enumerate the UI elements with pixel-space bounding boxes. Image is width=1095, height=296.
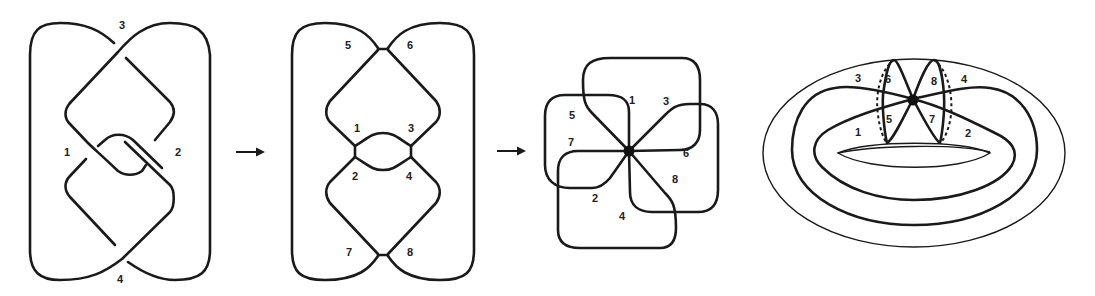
region-label-4: 4 — [406, 170, 413, 182]
torus-label-6: 6 — [885, 73, 891, 85]
petal-bottom — [558, 151, 676, 248]
torus-label-3: 3 — [855, 72, 861, 84]
petal-right — [629, 104, 718, 212]
right-arrow-icon — [497, 147, 526, 156]
petal-label-6: 6 — [683, 147, 689, 159]
torus-loop-outer — [792, 87, 1037, 225]
bouquet-panel: 1 3 5 7 6 8 2 4 — [545, 58, 718, 248]
torus-label-7: 7 — [929, 113, 935, 125]
petal-label-1: 1 — [629, 94, 635, 106]
torus-outer-boundary — [763, 59, 1065, 247]
knot-strand-inner-top — [98, 135, 162, 168]
torus-label-2: 2 — [965, 127, 971, 139]
crossing-label-1: 1 — [64, 146, 70, 158]
petal-label-5: 5 — [569, 109, 575, 121]
region-label-5: 5 — [345, 39, 351, 51]
torus-panel: 3 6 8 4 1 5 7 2 — [763, 59, 1065, 247]
crossing-label-3: 3 — [119, 19, 125, 31]
region-label-1: 1 — [354, 122, 360, 134]
petal-label-4: 4 — [619, 210, 626, 222]
region-label-3: 3 — [408, 122, 414, 134]
torus-label-1: 1 — [855, 126, 861, 138]
ribbon-upper-diamond — [326, 50, 440, 146]
torus-label-4: 4 — [961, 73, 968, 85]
petal-label-8: 8 — [672, 173, 678, 185]
torus-label-8: 8 — [931, 75, 937, 87]
region-label-2: 2 — [352, 170, 358, 182]
ribbon-middle-lens — [355, 133, 411, 170]
ribbon-lower-diamond — [326, 157, 440, 254]
knot-strand-lower-left — [66, 159, 116, 245]
right-arrow-icon — [236, 148, 265, 157]
knot-strand-upper-right — [126, 58, 174, 140]
region-label-7: 7 — [346, 246, 352, 258]
torus-label-5: 5 — [886, 113, 892, 125]
petal-label-7: 7 — [568, 136, 574, 148]
region-label-6: 6 — [407, 39, 413, 51]
region-label-8: 8 — [407, 246, 413, 258]
crossing-label-2: 2 — [175, 146, 181, 158]
knot-diagram-panel: 3 1 2 4 — [30, 19, 210, 285]
torus-vertex — [908, 95, 919, 106]
ribbon-graph-panel: 5 6 1 3 2 4 7 8 — [292, 23, 474, 280]
petal-label-3: 3 — [663, 95, 669, 107]
petal-label-2: 2 — [592, 192, 598, 204]
knot-strand-outer-left — [30, 23, 174, 280]
crossing-label-4: 4 — [117, 273, 124, 285]
diagram-canvas: 3 1 2 4 5 6 1 3 2 4 7 8 — [0, 0, 1095, 296]
bouquet-vertex — [624, 146, 635, 157]
torus-loop-inner — [814, 99, 1015, 200]
